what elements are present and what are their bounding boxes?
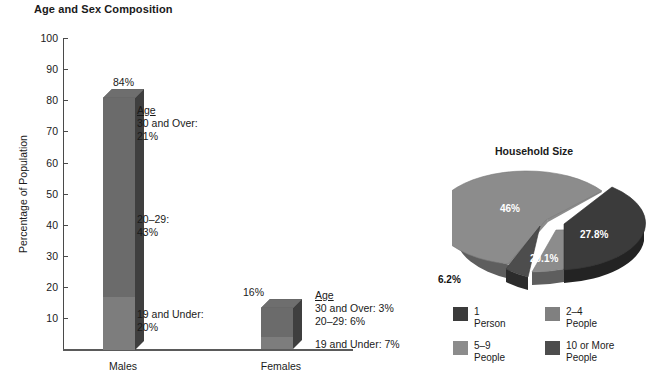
pie-label-1-person: 27.8% [580, 229, 608, 240]
y-tick-20 [63, 287, 68, 288]
legend-item-1-person[interactable]: 1 Person [453, 306, 545, 340]
legend-swatch-5-9-people [453, 341, 468, 355]
pie-label-2-4-people: 46% [500, 203, 520, 214]
bar-females-value-label: 16% [243, 286, 284, 298]
y-tick-90 [63, 69, 68, 70]
bar-females-seg-30-and-over[interactable] [261, 308, 293, 318]
legend-swatch-10-or-more-people [545, 341, 560, 355]
bar-chart-title: Age and Sex Composition [34, 3, 173, 15]
legend-swatch-1-person [453, 307, 468, 321]
bar-females-side-face [293, 299, 303, 349]
bar-males-seg-20-29[interactable] [103, 163, 135, 297]
legend-label-1-person: 1 Person [474, 306, 506, 330]
pie-chart[interactable]: 46% 27.8% 20.1% 6.2% [452, 170, 648, 295]
males-annotation-heading: Age [137, 104, 198, 117]
x-tick-label-females: Females [251, 360, 311, 372]
bar-females-seg-19-and-under[interactable] [261, 337, 293, 349]
bar-females-seg-20-29[interactable] [261, 318, 293, 337]
pie-chart-svg [452, 170, 648, 295]
y-tick-30 [63, 256, 68, 257]
females-annotation-under19-line: 19 and Under: 7% [315, 338, 400, 351]
males-annotation-under19-label: 19 and Under: [137, 308, 204, 321]
males-annotation-2029: 20–29: 43% [137, 213, 169, 239]
bar-males-value-label: 84% [103, 76, 144, 88]
females-annotation-heading: Age [315, 289, 394, 302]
bar-males-seg-30-and-over[interactable] [103, 98, 135, 163]
males-annotation-over30-value: 21% [137, 130, 198, 143]
y-tick-10 [63, 318, 68, 319]
males-annotation-2029-label: 20–29: [137, 213, 169, 226]
pie-legend: 1 Person 2–4 People 5–9 People 10 or Mor… [453, 306, 649, 374]
y-tick-label-20: 20 [30, 282, 58, 292]
legend-label-5-9-people: 5–9 People [474, 340, 505, 364]
females-annotation-over30: 30 and Over: 3% [315, 302, 394, 315]
y-axis-title: Percentage of Population [17, 109, 29, 279]
x-tick-label-males: Males [93, 360, 153, 372]
y-tick-40 [63, 225, 68, 226]
males-annotation-block: Age 30 and Over: 21% [137, 104, 198, 144]
legend-swatch-2-4-people [545, 307, 560, 321]
y-tick-100 [63, 38, 68, 39]
y-tick-label-90: 90 [30, 64, 58, 74]
pie-label-5-9-people: 20.1% [530, 253, 558, 264]
legend-label-2-4-people: 2–4 People [566, 306, 597, 330]
y-tick-70 [63, 131, 68, 132]
y-tick-label-80: 80 [30, 95, 58, 105]
legend-item-2-4-people[interactable]: 2–4 People [545, 306, 649, 340]
legend-label-10-or-more-people: 10 or More People [566, 340, 614, 364]
males-annotation-2029-value: 43% [137, 226, 169, 239]
females-annotation-2029: 20–29: 6% [315, 315, 394, 328]
bar-males-seg-19-and-under[interactable] [103, 297, 135, 350]
pie-chart-title: Household Size [495, 145, 573, 157]
legend-item-5-9-people[interactable]: 5–9 People [453, 340, 545, 374]
y-tick-label-40: 40 [30, 220, 58, 230]
pie-label-10-or-more-people: 6.2% [438, 274, 461, 285]
males-annotation-under19-value: 20% [137, 321, 204, 334]
y-tick-label-50: 50 [30, 189, 58, 199]
y-tick-label-10: 10 [30, 313, 58, 323]
males-annotation-under19: 19 and Under: 20% [137, 308, 204, 334]
males-annotation-over30-label: 30 and Over: [137, 117, 198, 130]
y-tick-label-100: 100 [30, 33, 58, 43]
y-tick-label-60: 60 [30, 158, 58, 168]
legend-item-10-or-more-people[interactable]: 10 or More People [545, 340, 649, 374]
y-tick-label-30: 30 [30, 251, 58, 261]
y-tick-80 [63, 100, 68, 101]
y-tick-60 [63, 163, 68, 164]
females-annotation-under19: 19 and Under: 7% [315, 338, 400, 351]
females-annotation-block: Age 30 and Over: 3% 20–29: 6% [315, 289, 394, 329]
y-tick-label-70: 70 [30, 126, 58, 136]
y-tick-50 [63, 194, 68, 195]
